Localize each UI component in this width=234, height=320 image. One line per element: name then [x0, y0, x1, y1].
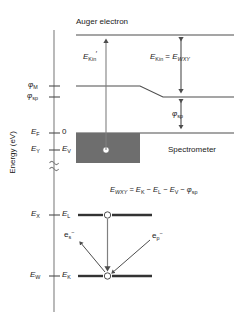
tick-label-E-Y: EY [31, 145, 40, 153]
primary-electron-arrow [112, 240, 150, 273]
kin-equals-wxy-label: EKin = EWXY [150, 53, 190, 61]
tick-label-E-V: EV [62, 145, 71, 153]
tick-label-phi-M: φM [28, 81, 38, 89]
auger-energy-level-diagram: Energy (eV) Auger electron Spectrometer … [0, 0, 234, 320]
tick-label-E-F: EF [31, 128, 40, 136]
tick-label-zero: 0 [62, 128, 66, 136]
electron-label-e-s: es− [64, 231, 74, 239]
kin-prime-label: EKin′ [83, 53, 97, 61]
tick-label-E-K: EK [62, 271, 71, 279]
phi-sp-label: φsp [172, 110, 183, 118]
spectrometer-label: Spectrometer [168, 146, 216, 154]
K-shell-hole-circle [104, 273, 110, 279]
auger-energy-equation: EWXY = EK − EL − EV − φsp [110, 186, 197, 194]
vacuum-level-line [76, 86, 234, 97]
electron-label-e-p: ep− [152, 232, 163, 240]
y-axis-label: Energy (eV) [8, 122, 17, 184]
L-shell-hole-circle [104, 212, 110, 218]
tick-label-E-L: EL [62, 210, 70, 218]
ejected-electron-arrow [80, 242, 105, 272]
tick-label-E-W: EW [30, 271, 40, 279]
auger-electron-title: Auger electron [76, 18, 128, 26]
tick-label-E-X: EX [31, 210, 40, 218]
tick-label-phi-sp: φsp [27, 92, 38, 100]
